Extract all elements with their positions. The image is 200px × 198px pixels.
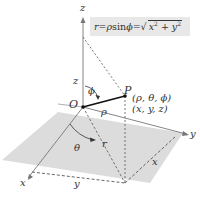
phi-label: ϕ xyxy=(88,86,95,96)
z-axis-label: z xyxy=(80,3,85,13)
spherical-coords-label: (ρ, θ, ϕ) xyxy=(132,93,171,103)
formula-sin: sin xyxy=(112,21,126,32)
x-axis-label: x xyxy=(20,178,26,188)
exponent-y: 2 xyxy=(177,20,181,27)
point-p-label: P xyxy=(124,85,131,96)
y-axis-arrow xyxy=(182,131,189,136)
y-length-label: y xyxy=(74,179,80,189)
theta-label: θ xyxy=(74,143,80,153)
xy-plane xyxy=(2,112,183,183)
formula-equals: = xyxy=(99,21,107,32)
plus-sign: + xyxy=(158,21,172,32)
z-axis-arrow xyxy=(81,17,86,23)
rect-coords-label: (x, y, z) xyxy=(132,104,168,114)
rho-label: ρ xyxy=(101,107,107,117)
phi-arc-arrowhead xyxy=(96,95,101,100)
formula-equals-2: = xyxy=(133,21,141,32)
r-label: r xyxy=(102,139,107,149)
origin-label: O xyxy=(69,99,78,110)
formula-radicand: x2 + y2 xyxy=(148,20,182,32)
x-length-label: x xyxy=(152,157,158,167)
z-height-label: z xyxy=(73,76,78,86)
origin-dot xyxy=(81,105,85,109)
y-axis-label: y xyxy=(190,129,196,139)
formula-box: r = ρ sin ϕ = √x2 + y2 xyxy=(90,17,190,36)
sqrt-icon: √ xyxy=(141,21,147,32)
